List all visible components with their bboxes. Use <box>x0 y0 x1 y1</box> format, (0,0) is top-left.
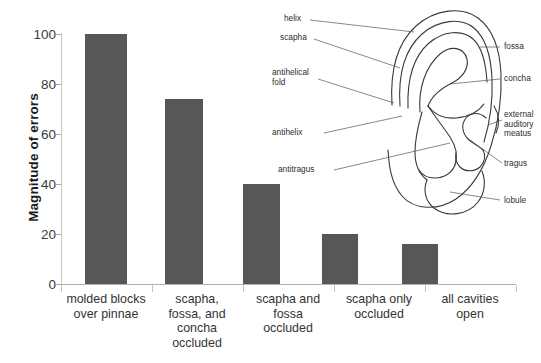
y-axis-line <box>61 33 62 285</box>
y-tick-60: 60 <box>22 128 56 142</box>
x-label-scapha-fossa-concha-occluded: scapha, fossa, and concha occluded <box>148 292 246 350</box>
x-sep-0 <box>61 285 62 292</box>
leader-lobule <box>450 192 500 200</box>
leader-lines <box>310 20 502 200</box>
y-tick-40: 40 <box>22 178 56 192</box>
x-sep-3 <box>334 285 335 292</box>
ear-label-external-auditory-meatus: external auditory meatus <box>504 110 534 139</box>
x-axis-line <box>61 284 516 285</box>
ear-label-antihelical-fold: antihelical fold <box>272 68 309 87</box>
ear-label-fossa: fossa <box>504 42 524 52</box>
x-sep-2 <box>243 285 244 292</box>
y-tick-80: 80 <box>22 78 56 92</box>
x-label-molded-blocks-over-pinnae: molded blocks over pinnae <box>57 292 155 321</box>
x-sep-5 <box>516 285 517 292</box>
leader-scapha <box>314 39 400 68</box>
ear-label-concha: concha <box>504 74 531 84</box>
y-tick-100: 100 <box>22 28 56 42</box>
leader-external-auditory-meatus <box>488 120 502 125</box>
leader-antihelical-fold <box>318 79 394 103</box>
leader-antihelix <box>324 116 402 133</box>
bar-molded-blocks-over-pinnae <box>85 34 127 284</box>
x-label-all-cavities-open: all cavities open <box>421 292 519 321</box>
x-sep-4 <box>425 285 426 292</box>
ear-label-tragus: tragus <box>504 159 527 169</box>
leader-helix <box>310 20 414 32</box>
ear-anatomy-diagram: helix scapha antihelical fold antihelix … <box>272 0 541 226</box>
x-sep-1 <box>152 285 153 292</box>
y-tick-20: 20 <box>22 228 56 242</box>
ear-label-scapha: scapha <box>280 33 307 43</box>
ear-outline-illustration <box>272 0 541 226</box>
x-label-scapha-and-fossa-occluded: scapha and fossa occluded <box>239 292 337 336</box>
bar-scapha-fossa-concha-occluded <box>165 99 203 284</box>
bar-all-cavities-open <box>402 244 438 284</box>
ear-label-antitragus: antitragus <box>278 165 314 175</box>
ear-label-helix: helix <box>284 14 301 24</box>
ear-label-lobule: lobule <box>504 196 526 206</box>
figure-root: Magnitude of errors 100 80 60 40 20 0 <box>0 0 541 363</box>
y-axis-tick-labels: 100 80 60 40 20 0 <box>16 0 56 363</box>
leader-antitragus <box>334 143 450 170</box>
y-tick-0: 0 <box>22 278 56 292</box>
ear-label-antihelix: antihelix <box>272 128 302 138</box>
x-label-scapha-only-occluded: scapha only occluded <box>330 292 428 321</box>
bar-scapha-only-occluded <box>322 234 358 284</box>
